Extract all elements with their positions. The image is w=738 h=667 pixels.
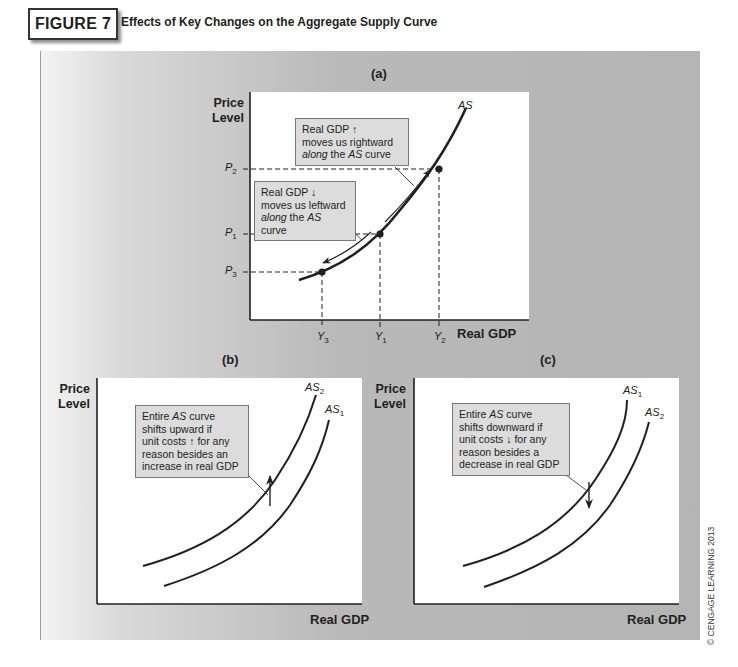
panel-c-y-label: Price Level xyxy=(362,382,406,412)
figure-label-box: FIGURE 7 xyxy=(28,8,118,40)
panel-c-caption: (c) xyxy=(540,352,556,367)
diagram-graphics xyxy=(0,0,738,667)
as2-label-b: AS2 xyxy=(305,381,324,396)
tick-p2: P2 xyxy=(225,161,237,176)
as1-label-b: AS1 xyxy=(325,403,344,418)
copyright-notice: © CENGAGE LEARNING 2013 xyxy=(706,527,716,645)
as2-label-c: AS2 xyxy=(645,406,664,421)
point-y1-p1 xyxy=(376,230,383,237)
point-y2-p2 xyxy=(435,165,442,172)
note-shift-upward: Entire AS curve shifts upward if unit co… xyxy=(135,405,249,478)
figure-label: FIGURE 7 xyxy=(35,15,111,33)
tick-y1: Y1 xyxy=(375,330,387,345)
panel-a-caption: (a) xyxy=(371,66,387,81)
panel-b-caption: (b) xyxy=(222,352,239,367)
panel-b-y-label: Price Level xyxy=(46,382,90,412)
panel-a-x-label: Real GDP xyxy=(457,326,516,341)
as1-label-c: AS1 xyxy=(623,384,642,399)
tick-p3: P3 xyxy=(225,264,237,279)
tick-y3: Y3 xyxy=(317,330,329,345)
note-gdp-decrease: Real GDP ↓ moves us leftward along the A… xyxy=(254,181,356,241)
panel-c-x-label: Real GDP xyxy=(627,612,686,627)
note-shift-downward: Entire AS curve shifts downward if unit … xyxy=(452,403,570,476)
panel-b-x-label: Real GDP xyxy=(310,612,369,627)
note-gdp-increase: Real GDP ↑ moves us rightward along the … xyxy=(295,118,409,166)
panel-a-y-label: Price Level xyxy=(200,96,244,126)
tick-p1: P1 xyxy=(225,226,237,241)
tick-y2: Y2 xyxy=(434,330,446,345)
as-curve-label: AS xyxy=(458,99,473,111)
point-y3-p3 xyxy=(318,268,325,275)
